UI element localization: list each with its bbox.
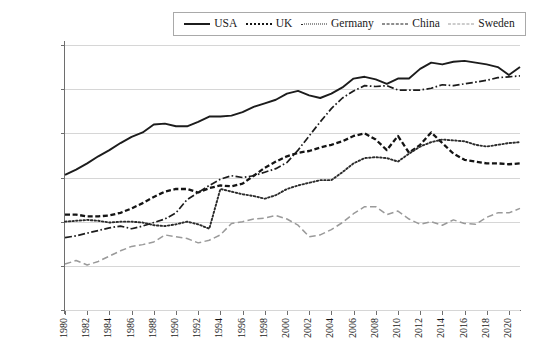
x-tick-mark: [65, 311, 66, 315]
line-fine-dotted-icon: [301, 19, 327, 29]
legend-label: China: [412, 18, 439, 30]
legend-label: UK: [276, 18, 293, 30]
x-tick-mark: [87, 311, 88, 315]
x-tick-label: 2016: [459, 318, 469, 338]
x-tick-label: 2018: [481, 318, 491, 338]
series-line-china: [65, 76, 520, 238]
x-tick-label: 1996: [237, 318, 247, 338]
line-dash-dot-icon: [382, 19, 408, 29]
x-tick-label: 1998: [259, 318, 269, 338]
legend-item-usa: USA: [184, 18, 237, 30]
x-tick-label: 1986: [126, 318, 136, 338]
legend-item-sweden: Sweden: [448, 18, 514, 30]
line-solid-icon: [184, 19, 210, 29]
chart-figure: USA UK Germany China Sweden Pre-tax Gini…: [0, 0, 542, 355]
gridline-y: [65, 310, 520, 311]
x-tick-label: 1980: [59, 318, 69, 338]
legend-label: Sweden: [478, 18, 514, 30]
x-tick-label: 1992: [192, 318, 202, 338]
series-line-uk: [65, 132, 520, 216]
x-tick-label: 2010: [392, 318, 402, 338]
x-tick-mark: [442, 311, 443, 315]
x-tick-mark: [398, 311, 399, 315]
x-tick-mark: [132, 311, 133, 315]
series-line-sweden: [65, 207, 520, 265]
x-tick-mark: [198, 311, 199, 315]
x-tick-label: 2002: [303, 318, 313, 338]
legend-item-uk: UK: [246, 18, 293, 30]
line-dotted-icon: [246, 19, 272, 29]
x-tick-mark: [376, 311, 377, 315]
x-tick-label: 2012: [414, 318, 424, 338]
x-tick-label: 2014: [436, 318, 446, 338]
chart-legend: USA UK Germany China Sweden: [173, 12, 526, 36]
x-tick-label: 2020: [503, 318, 513, 338]
x-tick-label: 1988: [148, 318, 158, 338]
x-tick-label: 1994: [214, 318, 224, 338]
legend-label: Germany: [331, 18, 374, 30]
x-tick-mark: [154, 311, 155, 315]
x-tick-label: 1982: [81, 318, 91, 338]
line-dashed-icon: [448, 19, 474, 29]
x-tick-label: 2004: [325, 318, 335, 338]
x-tick-mark: [487, 311, 488, 315]
x-tick-mark: [309, 311, 310, 315]
x-tick-mark: [354, 311, 355, 315]
x-tick-label: 1984: [103, 318, 113, 338]
x-tick-mark: [265, 311, 266, 315]
legend-label: USA: [214, 18, 237, 30]
x-tick-mark: [109, 311, 110, 315]
x-tick-label: 2008: [370, 318, 380, 338]
x-tick-mark: [509, 311, 510, 315]
x-tick-mark: [420, 311, 421, 315]
x-tick-mark: [287, 311, 288, 315]
series-lines: [65, 45, 520, 310]
series-line-usa: [65, 61, 520, 175]
legend-item-china: China: [382, 18, 439, 30]
x-tick-mark: [176, 311, 177, 315]
legend-item-germany: Germany: [301, 18, 374, 30]
x-tick-mark: [465, 311, 466, 315]
x-tick-label: 2006: [348, 318, 358, 338]
x-tick-mark: [331, 311, 332, 315]
x-tick-label: 2000: [281, 318, 291, 338]
x-tick-mark: [220, 311, 221, 315]
x-tick-label: 1990: [170, 318, 180, 338]
x-tick-mark: [243, 311, 244, 315]
